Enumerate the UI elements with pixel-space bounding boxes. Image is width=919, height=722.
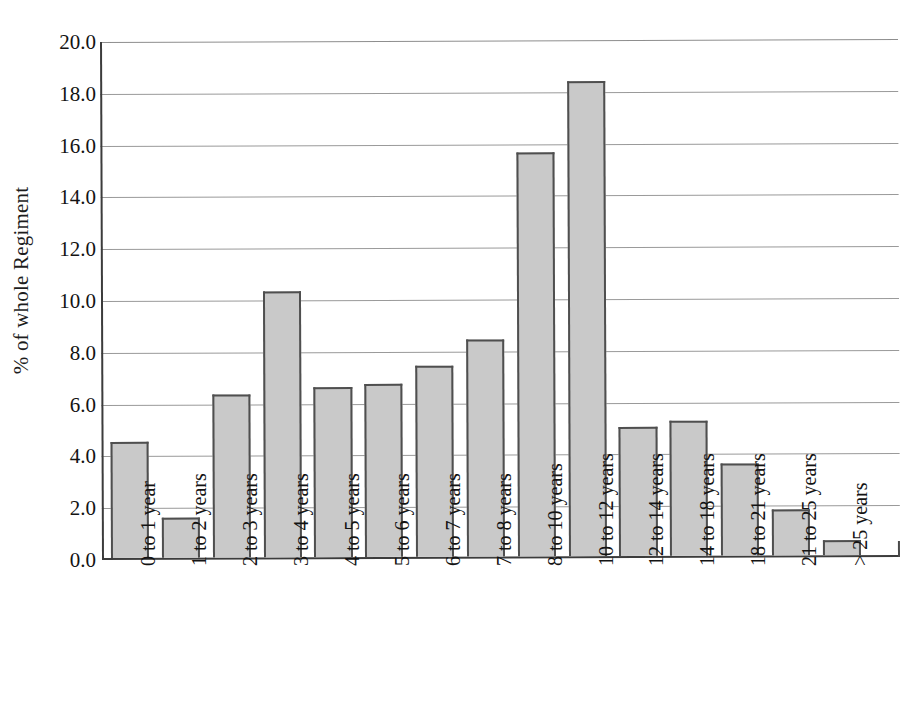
x-axis-tick-label-text: 2 to 3 years [240,473,260,566]
y-axis-tick-label: 20.0 [59,32,96,53]
x-axis-tick-label-text: 21 to 25 years [799,453,819,566]
x-axis-tick-label-text: 8 to 10 years [545,463,565,566]
y-axis-tick-label: 12.0 [59,239,96,260]
x-axis-tick-label-text: 10 to 12 years [596,453,616,566]
x-axis-tick-labels: 0 to 1 year1 to 2 years2 to 3 years3 to … [102,566,900,722]
y-axis-tick-label: 8.0 [70,342,96,363]
x-axis-tick-label-text: 6 to 7 years [443,473,463,566]
y-axis-tick-label: 0.0 [70,550,96,571]
y-axis-tick-label: 10.0 [59,291,96,312]
x-axis-tick-label-text: 12 to 14 years [646,453,666,566]
y-axis-title-text: % of whole Regiment [10,186,35,374]
x-axis-tick-label-text: 1 to 2 years [189,473,209,566]
x-axis-tick-label-text: 5 to 6 years [392,473,412,566]
x-axis-tick-label-text: > 25 years [850,483,870,566]
bar-chart-figure: % of whole Regiment 20.018.016.014.012.0… [0,0,919,722]
y-axis-tick-label: 4.0 [70,446,96,467]
x-axis-tick-label-text: 0 to 1 year [138,481,158,566]
y-axis-tick-labels: 20.018.016.014.012.010.08.06.04.02.00.0 [38,0,100,722]
y-axis-tick-label: 14.0 [59,187,96,208]
y-axis-tick-label: 6.0 [70,394,96,415]
x-axis-tick-label-text: 14 to 18 years [697,453,717,566]
x-axis-tick-label-text: 3 to 4 years [291,473,311,566]
x-axis-tick-label-text: 18 to 21 years [748,453,768,566]
x-axis-tick-label: > 25 years [850,566,919,716]
y-axis-tick-label: 2.0 [70,498,96,519]
y-axis-tick-label: 16.0 [59,135,96,156]
y-axis-tick-label: 18.0 [59,83,96,104]
x-axis-tick-label-text: 7 to 8 years [494,473,514,566]
x-axis-tick-label-text: 4 to 5 years [342,473,362,566]
